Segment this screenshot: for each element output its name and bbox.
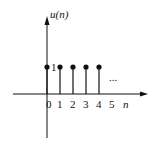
- x-axis-label: n: [123, 98, 129, 110]
- ellipsis: ...: [109, 71, 118, 83]
- tick-label-0: 0: [46, 98, 52, 110]
- tick-label-4: 4: [96, 98, 102, 110]
- stem-dot-n4: [96, 64, 101, 69]
- x-axis-arrow-icon: [140, 92, 148, 97]
- stem-dot-n2: [70, 64, 75, 69]
- stem-dot-n1: [57, 64, 62, 69]
- tick-label-1: 1: [57, 98, 63, 110]
- tick-label-3: 3: [83, 98, 89, 110]
- value-label: 1: [51, 61, 57, 73]
- y-axis-arrow-icon: [45, 16, 50, 25]
- tick-label-5: 5: [109, 98, 115, 110]
- y-axis-label: u(n): [50, 8, 69, 21]
- stem-dot-n3: [83, 64, 88, 69]
- stem-dot-n0: [44, 64, 49, 69]
- tick-label-2: 2: [70, 98, 76, 110]
- unit-step-diagram: u(n) 1 ... 0 1 2 3 4 5 n: [0, 0, 166, 148]
